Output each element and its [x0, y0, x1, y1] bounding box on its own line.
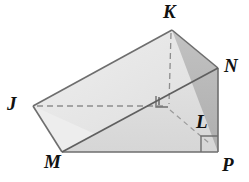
vertex-label-P: P	[222, 155, 234, 174]
solid-figure-svg	[0, 0, 249, 182]
vertex-label-N: N	[224, 56, 238, 75]
vertex-label-J: J	[7, 94, 17, 113]
geometry-figure-canvas: K N J L M P	[0, 0, 249, 182]
vertex-label-M: M	[44, 152, 61, 171]
vertex-label-L: L	[196, 112, 208, 131]
vertex-label-K: K	[163, 2, 176, 21]
